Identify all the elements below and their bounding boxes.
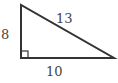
right-angle-marker — [21, 51, 28, 58]
bottom-side-label: 10 — [46, 64, 63, 79]
hypotenuse-label: 13 — [56, 11, 73, 26]
triangle-diagram: 8 13 10 — [0, 0, 118, 83]
left-side-label: 8 — [1, 27, 9, 42]
